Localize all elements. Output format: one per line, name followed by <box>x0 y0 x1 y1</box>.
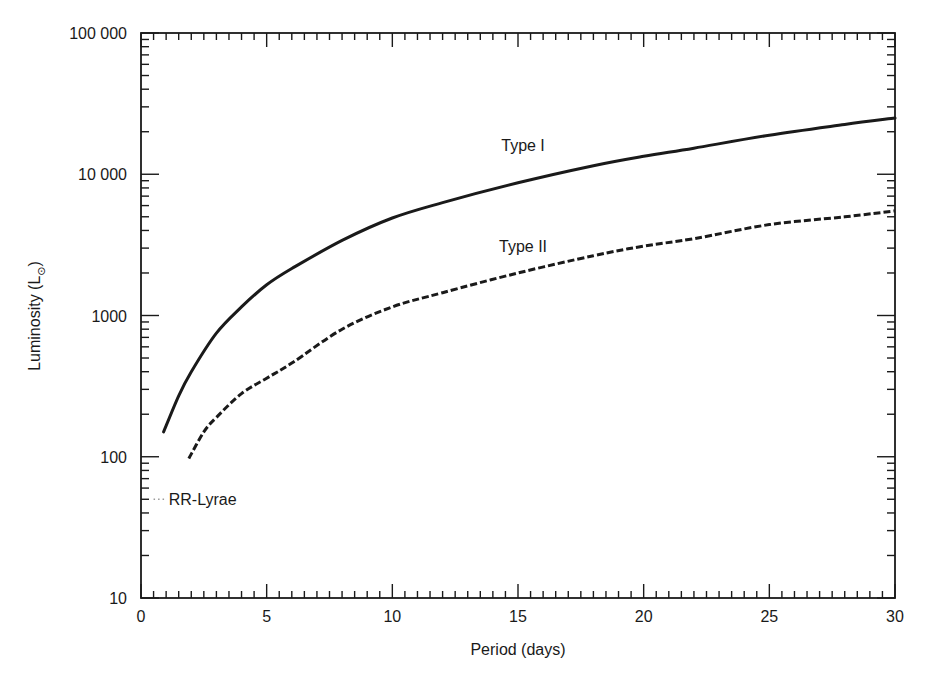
y-tick-label: 100 000 <box>69 25 127 42</box>
x-tick-label: 15 <box>509 608 527 625</box>
x-tick-label: 10 <box>383 608 401 625</box>
svg-text:Luminosity (L⊙): Luminosity (L⊙) <box>26 261 47 371</box>
series-layer <box>164 118 895 459</box>
x-axis-ticks <box>141 33 895 598</box>
y-tick-label: 100 <box>100 449 127 466</box>
x-tick-label: 20 <box>635 608 653 625</box>
x-tick-label: 5 <box>262 608 271 625</box>
plot-frame <box>141 33 895 598</box>
annotation-type-ii: Type II <box>499 238 547 255</box>
x-axis-title: Period (days) <box>470 641 565 658</box>
y-axis-tick-labels: 10100100010 000100 000 <box>69 25 127 607</box>
y-axis-title-main: Luminosity (L <box>26 276 43 371</box>
series-type-i-curve <box>164 118 895 432</box>
x-tick-label: 30 <box>886 608 904 625</box>
x-axis-tick-labels: 051015202530 <box>137 608 904 625</box>
y-tick-label: 10 <box>109 590 127 607</box>
annotations-layer: Type IType IIRR-Lyrae <box>154 137 547 508</box>
annotation-rr-lyrae: RR-Lyrae <box>169 491 237 508</box>
annotation-type-i: Type I <box>501 137 545 154</box>
x-tick-label: 25 <box>760 608 778 625</box>
y-axis-title-sun-symbol: ⊙ <box>35 266 47 275</box>
chart: 051015202530 10100100010 000100 000 Type… <box>0 0 940 692</box>
y-axis-ticks <box>141 33 895 598</box>
y-tick-label: 10 000 <box>78 166 127 183</box>
period-luminosity-chart: 051015202530 10100100010 000100 000 Type… <box>0 0 940 692</box>
y-tick-label: 1000 <box>91 308 127 325</box>
plot-border <box>141 33 895 598</box>
x-tick-label: 0 <box>137 608 146 625</box>
y-axis-title: Luminosity (L⊙) <box>26 261 47 371</box>
y-axis-title-close: ) <box>26 261 43 266</box>
